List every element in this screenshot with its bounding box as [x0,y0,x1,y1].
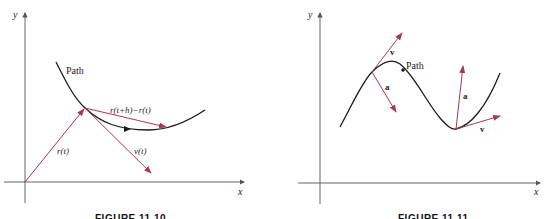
path-label: Path [406,60,424,71]
position-vector-label: r(t) [57,146,69,156]
y-axis-label: y [307,9,313,20]
acceleration-vector-trough [456,66,463,129]
secant-vector-label: r(t+h)−r(t) [110,105,151,115]
acceleration-label-crest: a [385,82,390,92]
position-vector-r-t [25,109,84,182]
figure-11-11: y x Path v a a v FIGURE 11.11 [298,9,540,219]
path-direction-arrow-icon [124,126,131,132]
figures-canvas: y x Path r(t) r(t+h)−r(t) v(t) FIGURE 11… [0,0,547,219]
path-direction-dot-icon [401,68,405,72]
acceleration-vector-crest [372,72,396,112]
x-axis-label: x [533,186,539,197]
velocity-label-trough: v [480,124,485,134]
path-curve [340,61,500,129]
figure-caption: FIGURE 11.10 [95,213,166,219]
path-label: Path [66,65,84,76]
x-axis-label: x [237,186,243,197]
acceleration-label-trough: a [463,91,468,101]
velocity-label-crest: v [390,47,395,57]
velocity-vector-label: v(t) [134,146,147,156]
velocity-vector-crest [372,33,402,72]
figure-caption: FIGURE 11.11 [398,213,468,219]
velocity-vector-trough [456,116,500,129]
figure-11-10: y x Path r(t) r(t+h)−r(t) v(t) FIGURE 11… [4,9,244,219]
velocity-vector-v-t [85,108,151,173]
y-axis-label: y [12,9,18,20]
